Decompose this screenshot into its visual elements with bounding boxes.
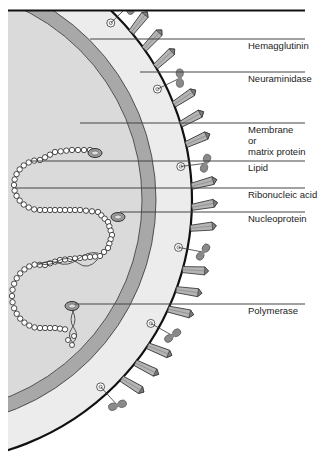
nucleoprotein-bead [32, 325, 37, 330]
hemagglutinin-icon [134, 359, 161, 378]
label-text: Lipid [248, 162, 268, 173]
label-text: Neuraminidase [248, 73, 312, 84]
nucleoprotein-bead [72, 207, 77, 212]
nucleoprotein-bead [27, 323, 32, 328]
label-text: Membrane [248, 124, 293, 135]
nucleoprotein-bead [11, 306, 16, 311]
nucleoprotein-bead [77, 207, 82, 212]
label-text: or [248, 135, 256, 146]
nucleoprotein-bead [92, 254, 97, 259]
hemagglutinin-icon [179, 108, 206, 128]
nucleoprotein-bead [47, 325, 52, 330]
nucleoprotein-bead [37, 207, 42, 212]
nucleoprotein-bead [75, 147, 80, 152]
hemagglutinin-icon [120, 375, 146, 395]
hemagglutinin-icon [176, 286, 203, 298]
nucleoprotein-bead [14, 276, 19, 281]
label-text: matrix protein [248, 146, 306, 157]
nucleoprotein-bead [12, 177, 17, 182]
label-text: Nucleoprotein [248, 213, 307, 224]
hemagglutinin-icon [172, 87, 198, 108]
nucleoprotein-bead [67, 207, 72, 212]
nucleoprotein-bead [42, 325, 47, 330]
nucleoprotein-bead [21, 202, 26, 207]
nucleoprotein-bead [72, 256, 77, 261]
nucleoprotein-bead [47, 207, 52, 212]
nucleoprotein-bead [9, 293, 14, 298]
nucleoprotein-bead [52, 149, 57, 154]
nucleoprotein-bead [89, 209, 94, 214]
hemagglutinin-icon [98, 0, 118, 4]
nucleoprotein-bead [69, 147, 74, 152]
nucleoprotein-bead [42, 262, 47, 267]
nucleoprotein-bead [22, 320, 27, 325]
nucleoprotein-bead [97, 253, 102, 258]
nucleoprotein-bead [62, 207, 67, 212]
hemagglutinin-icon [146, 342, 173, 359]
nucleoprotein-bead [11, 281, 16, 286]
nucleoprotein-bead [14, 171, 19, 176]
nucleoprotein-bead [42, 155, 47, 160]
nucleoprotein-bead [52, 325, 57, 330]
nucleoprotein-bead [87, 254, 92, 259]
nucleoprotein-bead [14, 311, 19, 316]
hemagglutinin-icon [153, 46, 178, 69]
nucleoprotein-bead [47, 152, 52, 157]
nucleoprotein-bead [83, 208, 88, 213]
nucleoprotein-bead [18, 316, 23, 321]
hemagglutinin-icon [191, 199, 218, 212]
nucleoprotein-bead [64, 148, 69, 153]
label-text: Ribonucleic acid [248, 189, 317, 200]
nucleoprotein-bead [32, 262, 37, 267]
nucleoprotein-bead [62, 257, 67, 262]
nucleoprotein-bead [81, 147, 86, 152]
nucleoprotein-bead [58, 149, 63, 154]
label-neuraminidase: Neuraminidase [140, 72, 312, 84]
label-text: Polymerase [248, 305, 298, 316]
nucleoprotein-bead [52, 207, 57, 212]
nucleoprotein-bead [57, 326, 62, 331]
nucleoprotein-bead [27, 264, 32, 269]
nucleoprotein-bead [12, 188, 17, 193]
virus-diagram: HemagglutininNeuraminidaseMembraneormatr… [0, 0, 328, 466]
nucleoprotein-bead [62, 327, 67, 332]
hemagglutinin-icon [167, 305, 194, 318]
nucleoprotein-bead [32, 207, 37, 212]
nucleoprotein-bead [26, 205, 31, 210]
nucleoprotein-bead [11, 182, 16, 187]
nucleoprotein-bead [10, 287, 15, 292]
nucleoprotein-bead [42, 207, 47, 212]
nucleoprotein-bead [57, 207, 62, 212]
nucleoprotein-bead [37, 325, 42, 330]
hemagglutinin-icon [182, 266, 208, 276]
hemagglutinin-icon [190, 222, 217, 233]
nucleoprotein-bead [22, 267, 27, 272]
nucleoprotein-bead [10, 300, 15, 305]
nucleoprotein-bead [18, 271, 23, 276]
hemagglutinin-icon [184, 130, 211, 148]
label-text: Hemagglutinin [248, 40, 309, 51]
nucleoprotein-bead [37, 157, 42, 162]
